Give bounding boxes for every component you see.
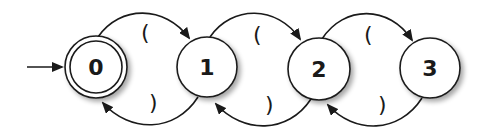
edge-label-1-0: ) [149,90,158,115]
edge-label-3-2: ) [378,92,387,117]
state-0-label: 0 [88,55,103,80]
transition-3-to-2 [328,98,422,126]
state-diagram: ( ) ( ) ( ) 0 1 2 3 [0,0,486,134]
edge-label-2-1: ) [265,92,274,117]
state-2-label: 2 [311,57,326,82]
state-3-label: 3 [422,56,437,81]
state-1-label: 1 [199,55,214,80]
edge-label-1-2: ( [253,22,262,47]
edge-label-2-3: ( [364,22,373,47]
edge-label-0-1: ( [141,20,150,45]
transition-2-to-1 [216,99,311,126]
